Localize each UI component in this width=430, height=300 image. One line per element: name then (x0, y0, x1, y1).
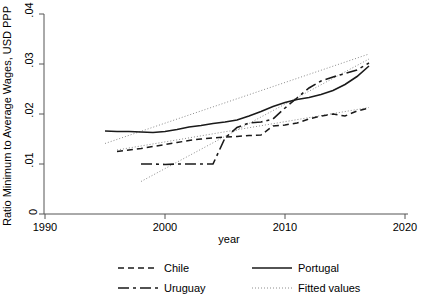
legend-line-samples (0, 0, 430, 300)
legend-label-fitted-values: Fitted values (298, 282, 360, 294)
legend-label-portugal: Portugal (298, 262, 339, 274)
chart-container: Ratio Minimum to Average Wages, USD PPP … (0, 0, 430, 300)
legend-label-chile: Chile (164, 262, 189, 274)
legend-label-uruguay: Uruguay (164, 282, 206, 294)
